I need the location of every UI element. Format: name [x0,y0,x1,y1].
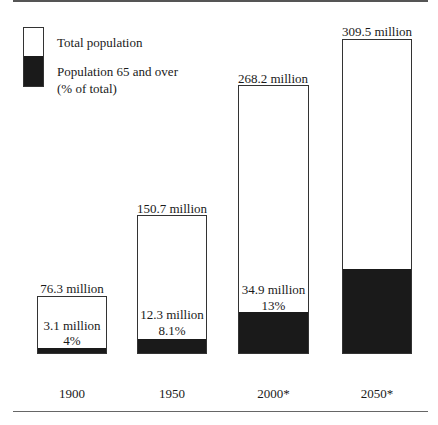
bar-1900-older-label: 3.1 million [37,318,107,334]
bar-1900-total-label: 76.3 million [37,281,107,297]
bar-2000-pct-label: 13% [238,298,309,314]
bar-1950-older-label: 12.3 million [137,307,207,323]
bar-1900-year: 1900 [37,386,107,402]
bar-2000-older-fill [239,312,308,353]
bar-1900-pct-label: 4% [37,333,107,349]
legend-swatch-dark [24,56,43,86]
bar-2000-year: 2000* [238,386,309,402]
legend-swatch [23,27,44,87]
bar-2050-older-label: 67.4 million [342,267,412,283]
bar-2050-total-label: 309.5 million [342,24,412,40]
bottom-rule [13,411,428,412]
bar-1950-pct-label: 8.1% [137,323,207,339]
bar-2050-pct-label: 21.8% [342,282,412,298]
legend-older-sublabel: (% of total) [57,81,117,97]
legend-older-label: Population 65 and over [57,64,178,80]
top-rule [13,0,428,2]
bar-2050 [342,39,412,354]
bar-2050-year: 2050* [342,386,412,402]
bar-1950-year: 1950 [137,386,207,402]
bar-2000-older-label: 34.9 million [238,282,309,298]
bar-1950-older-fill [138,339,206,353]
legend-total-label: Total population [57,35,142,51]
